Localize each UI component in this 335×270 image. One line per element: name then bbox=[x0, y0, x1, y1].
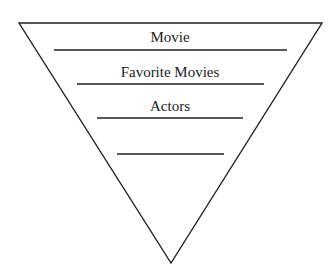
level-label-movie: Movie bbox=[150, 29, 190, 45]
level-label-actors: Actors bbox=[150, 98, 190, 114]
funnel-diagram: Movie Favorite Movies Actors bbox=[0, 0, 335, 270]
funnel-triangle bbox=[19, 23, 322, 263]
level-label-favorite-movies: Favorite Movies bbox=[121, 64, 220, 80]
